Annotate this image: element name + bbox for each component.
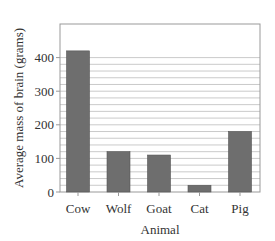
y-axis-ticks: 0100200300400 xyxy=(35,50,61,199)
bars xyxy=(67,51,252,192)
x-tick-label: Pig xyxy=(231,201,249,216)
y-tick-label: 400 xyxy=(35,50,55,65)
y-tick-label: 100 xyxy=(35,151,55,166)
x-tick-label: Goat xyxy=(146,201,172,216)
x-axis-title: Animal xyxy=(141,222,180,237)
bar-cow xyxy=(67,51,90,192)
bar-chart: 0100200300400 CowWolfGoatCatPig Animal A… xyxy=(0,0,275,241)
y-tick-label: 200 xyxy=(35,117,55,132)
x-tick-label: Wolf xyxy=(106,201,132,216)
x-tick-label: Cow xyxy=(66,201,91,216)
x-tick-label: Cat xyxy=(190,201,208,216)
bar-wolf xyxy=(107,152,130,192)
x-axis-labels: CowWolfGoatCatPig xyxy=(66,192,249,216)
bar-cat xyxy=(188,185,211,192)
y-tick-label: 0 xyxy=(48,185,55,200)
bar-goat xyxy=(148,155,171,192)
y-tick-label: 300 xyxy=(35,84,55,99)
bar-pig xyxy=(229,132,252,192)
y-axis-title: Average mass of brain (grams) xyxy=(11,28,26,188)
